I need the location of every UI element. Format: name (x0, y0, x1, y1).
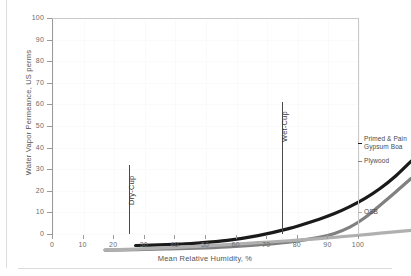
y-axis-tick-label: 30 (36, 165, 44, 172)
y-axis-tick-label: 20 (36, 187, 44, 194)
y-axis-tick-label: 0 (40, 230, 44, 237)
y-axis-title: Water Vapor Permeance, US perms (24, 23, 33, 203)
x-axis-tick-label: 100 (346, 241, 370, 248)
plot-area (52, 18, 359, 235)
y-axis-tick-label: 70 (36, 79, 44, 86)
marker-label-dry-cup: Dry-Cup (127, 176, 136, 205)
series-label-line: Gypsum Boa (364, 143, 407, 151)
y-axis-tick (47, 83, 52, 84)
y-axis-tick (47, 191, 52, 192)
x-axis-tick-label: 40 (162, 241, 186, 248)
series-label-line: Plywood (364, 157, 389, 165)
x-axis-tick (205, 235, 206, 239)
y-axis-tick-label: 60 (36, 100, 44, 107)
x-axis-tick-label: 30 (132, 241, 156, 248)
y-axis-tick (47, 61, 52, 62)
x-axis-tick-label: 20 (101, 241, 125, 248)
x-axis-tick-label: 90 (315, 241, 339, 248)
y-axis-tick-label: 100 (32, 14, 44, 21)
x-axis-title: Mean Relative Humidity, % (52, 254, 358, 263)
callout-leader (358, 212, 362, 213)
y-axis-tick-label: 10 (36, 208, 44, 215)
x-axis-tick (266, 235, 267, 239)
x-axis-tick (236, 235, 237, 239)
x-axis-tick (358, 235, 359, 239)
y-axis-tick (47, 126, 52, 127)
x-axis-tick-label: 10 (71, 241, 95, 248)
plot-top-border (52, 18, 359, 19)
y-axis-tick-label: 80 (36, 57, 44, 64)
series-label-line: Primed & Pain (364, 135, 407, 143)
x-axis-tick (83, 235, 84, 239)
x-axis-tick-label: 50 (193, 241, 217, 248)
y-axis-tick (47, 148, 52, 149)
y-axis-tick (47, 212, 52, 213)
y-axis-tick-label: 50 (36, 122, 44, 129)
series-label-line: OSB (364, 208, 378, 216)
gridline-vertical (53, 18, 54, 234)
x-axis-tick (52, 235, 53, 239)
gridline-vertical (84, 18, 85, 234)
marker-label-wet-cup: Wet-Cup (280, 111, 289, 142)
series-label-osb: OSB (364, 208, 378, 216)
x-axis-tick (327, 235, 328, 239)
y-axis-tick (47, 18, 52, 19)
x-axis-tick-label: 80 (285, 241, 309, 248)
x-axis-tick-label: 60 (224, 241, 248, 248)
y-axis-tick (47, 40, 52, 41)
x-axis-tick (113, 235, 114, 239)
series-label-primed-painted-gypsum-board: Primed & PainGypsum Boa (364, 135, 407, 151)
x-axis-tick-label: 0 (40, 241, 64, 248)
x-axis-tick (174, 235, 175, 239)
y-axis-tick-label: 40 (36, 144, 44, 151)
x-axis-tick (144, 235, 145, 239)
series-label-plywood: Plywood (364, 157, 389, 165)
x-axis-tick (297, 235, 298, 239)
plot-right-border (358, 18, 359, 235)
y-axis-tick-label: 90 (36, 36, 44, 43)
callout-leader (358, 143, 362, 144)
callout-leader (358, 161, 362, 162)
y-axis-tick (47, 169, 52, 170)
y-axis-tick (47, 104, 52, 105)
x-axis-tick-label: 70 (254, 241, 278, 248)
